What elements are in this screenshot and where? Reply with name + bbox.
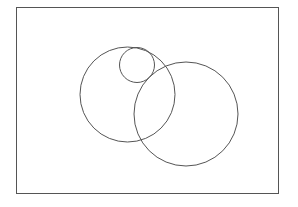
circles-group: [80, 47, 238, 166]
frame-rectangle: [17, 8, 279, 194]
diagram-canvas: [0, 0, 298, 207]
large-left-circle: [80, 47, 175, 142]
